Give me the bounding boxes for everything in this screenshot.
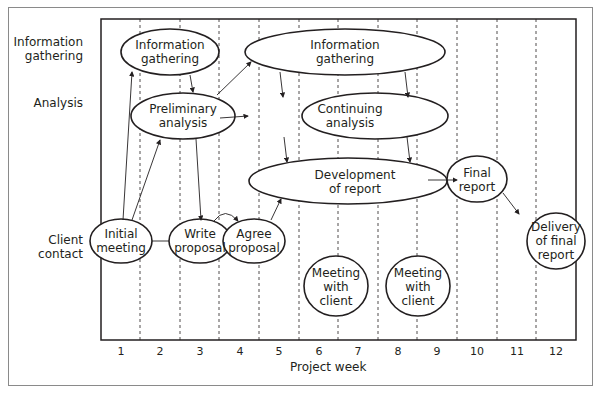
node-agree-proposal: Agree proposal [227,225,281,257]
x-axis-label: Project week [290,360,410,374]
tick-week-10: 10 [462,345,492,358]
node-delivery-of-final-report: Delivery of final report [530,218,582,264]
tick-week-7: 7 [343,345,373,358]
tick-week-2: 2 [145,345,175,358]
row-label-client-contact: Client contact [3,233,83,261]
node-development-of-report: Development of report [310,166,400,198]
row-label-information-gathering: Information gathering [3,35,83,63]
node-write-proposal: Write proposal [173,225,227,257]
node-preliminary-analysis: Preliminary analysis [150,100,216,132]
tick-week-1: 1 [106,345,136,358]
node-final-report: Final report [455,164,499,196]
tick-week-6: 6 [304,345,334,358]
tick-week-4: 4 [225,345,255,358]
tick-week-8: 8 [383,345,413,358]
node-information-gathering-early: Information gathering [138,36,202,68]
node-information-gathering-later: Information gathering [300,36,390,68]
tick-week-12: 12 [541,345,571,358]
tick-week-9: 9 [422,345,452,358]
node-initial-meeting: Initial meeting [94,225,148,257]
tick-week-11: 11 [502,345,532,358]
node-meeting-with-client-1: Meeting with client [308,264,364,310]
tick-week-5: 5 [264,345,294,358]
node-meeting-with-client-2: Meeting with client [390,264,446,310]
row-label-analysis: Analysis [3,96,83,110]
node-continuing-analysis: Continuing analysis [310,100,390,132]
tick-week-3: 3 [185,345,215,358]
